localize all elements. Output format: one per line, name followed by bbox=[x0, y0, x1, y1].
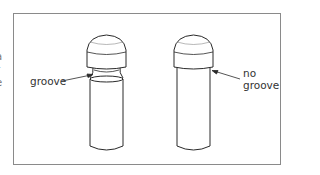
right-pin-no-groove bbox=[174, 35, 213, 150]
left-pin-with-groove bbox=[87, 35, 126, 150]
no-groove-label: no groove bbox=[243, 67, 279, 91]
no-groove-arrow bbox=[214, 71, 240, 79]
no-groove-label-line: groove bbox=[243, 79, 279, 91]
groove-label: groove bbox=[30, 75, 66, 87]
arrowhead-icon bbox=[212, 71, 218, 75]
groove-arrow bbox=[62, 75, 91, 81]
no-groove-label-line: no bbox=[243, 67, 279, 79]
